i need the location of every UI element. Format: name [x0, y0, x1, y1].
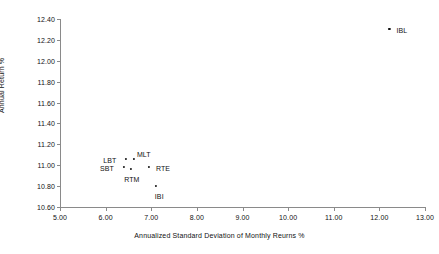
data-point-label: IBI [155, 193, 164, 200]
y-tick-label: 11.20 [38, 141, 56, 148]
plot-area: IBLLBTMLTSBTRTMRTEIBI [60, 19, 425, 207]
y-tick-label: 11.60 [38, 99, 56, 106]
y-tick [57, 144, 61, 145]
x-tick [151, 207, 152, 211]
data-point-label: MLT [137, 151, 151, 158]
data-point-label: RTM [124, 176, 139, 183]
data-point [130, 168, 132, 170]
x-tick-label: 12.00 [370, 214, 388, 221]
y-tick-label: 11.00 [38, 162, 56, 169]
y-tick-label: 12.40 [37, 16, 55, 23]
y-tick-label: 11.40 [38, 120, 56, 127]
x-tick [197, 207, 198, 211]
x-tick-label: 8.00 [190, 214, 204, 221]
data-point [133, 158, 135, 160]
x-tick-label: 9.00 [235, 214, 249, 221]
y-tick [57, 82, 61, 83]
y-tick-label: 10.60 [37, 204, 55, 211]
y-tick [57, 103, 61, 104]
scatter-chart: Annual Return % Annualized Standard Devi… [0, 0, 439, 254]
y-tick [57, 165, 61, 166]
data-point [125, 158, 127, 160]
x-tick [288, 207, 289, 211]
data-point [148, 166, 150, 168]
y-tick [57, 19, 61, 20]
data-point-label: LBT [103, 157, 116, 164]
data-point [155, 185, 157, 187]
x-tick-label: 13.00 [416, 214, 434, 221]
y-tick-label: 10.80 [37, 183, 55, 190]
data-point [388, 28, 390, 30]
x-axis-title: Annualized Standard Deviation of Monthly… [0, 232, 439, 239]
y-tick-label: 12.00 [37, 57, 55, 64]
x-tick-label: 7.00 [144, 214, 158, 221]
x-tick-label: 5.00 [53, 214, 67, 221]
x-tick [334, 207, 335, 211]
y-tick [57, 40, 61, 41]
x-tick [243, 207, 244, 211]
x-tick-label: 10.00 [279, 214, 297, 221]
data-point [123, 166, 125, 168]
x-tick [106, 207, 107, 211]
data-point-label: IBL [396, 27, 407, 34]
y-axis-title: Annual Return % [0, 58, 5, 113]
x-tick-label: 6.00 [99, 214, 113, 221]
y-tick [57, 123, 61, 124]
x-tick [60, 207, 61, 211]
y-tick-label: 11.80 [38, 78, 56, 85]
data-point-label: SBT [100, 165, 114, 172]
y-tick-label: 12.20 [37, 36, 55, 43]
x-tick-label: 11.00 [325, 214, 343, 221]
x-tick [379, 207, 380, 211]
y-axis-line [60, 19, 61, 207]
y-tick [57, 61, 61, 62]
y-tick [57, 186, 61, 187]
data-point-label: RTE [156, 165, 170, 172]
x-tick [425, 207, 426, 211]
